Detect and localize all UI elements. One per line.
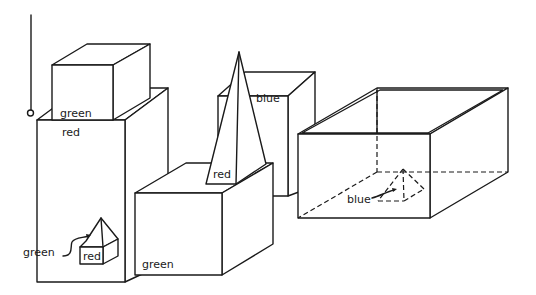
hand-pointer: [28, 15, 34, 116]
red-pyramid-label: red: [213, 168, 231, 181]
green-box-label: green: [142, 258, 174, 271]
open-box: [298, 88, 508, 218]
blocks-world-diagram: red green red green blue green red: [0, 0, 536, 295]
blue-pyramid-label: blue: [347, 193, 371, 206]
green-cube-label: green: [60, 107, 92, 120]
small-red-label: red: [83, 250, 101, 263]
small-green-label: green: [23, 246, 55, 259]
blue-block-label: blue: [256, 92, 280, 105]
red-block-label: red: [62, 126, 80, 139]
